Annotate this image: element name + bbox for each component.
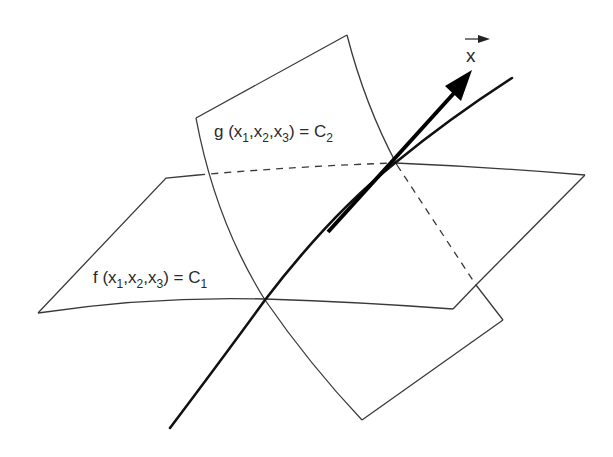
surface-f-hidden-top-edge (198, 163, 395, 175)
surface-g-right-lower-edge (476, 285, 503, 320)
tangent-vector-shaft (328, 92, 455, 232)
surface-f-label-prefix: f (x (93, 268, 117, 287)
surface-f-right-edge (476, 175, 585, 285)
surface-g-label-prefix: g (x (214, 122, 243, 141)
surface-f-bottom-edge (38, 299, 453, 313)
surface-f-label-suffix: ) = C (163, 268, 200, 287)
surface-f-label-const-sub: 1 (200, 277, 207, 291)
diagram-svg: x g (x1,x2,x3) = C2 f (x1,x2,x3) = C1 (0, 0, 613, 457)
surface-f-label-sep2: ,x (143, 268, 157, 287)
surface-g-label-sep1: ,x (249, 122, 263, 141)
surface-g-left-edge (196, 118, 362, 420)
surface-f-label: f (x1,x2,x3) = C1 (93, 268, 207, 291)
vector-label-symbol: x (466, 45, 476, 66)
surface-g-label: g (x1,x2,x3) = C2 (214, 122, 333, 145)
tangent-vector (328, 70, 472, 232)
diagram-canvas: x g (x1,x2,x3) = C2 f (x1,x2,x3) = C1 (0, 0, 613, 457)
surface-f-top-right-edge (395, 163, 585, 175)
surface-g-bottom-edge (362, 320, 503, 420)
surface-g-label-const-sub: 2 (326, 131, 333, 145)
surface-g-top-edge (196, 35, 347, 118)
surface-g-label-sep2: ,x (269, 122, 283, 141)
vector-label-overarrow-head (478, 35, 490, 43)
surface-g-hidden-right-edge (397, 165, 476, 285)
vector-label: x (465, 35, 490, 66)
surface-f-left-edges (38, 175, 198, 313)
surface-f-label-sep1: ,x (123, 268, 137, 287)
surface-g-label-suffix: ) = C (289, 122, 326, 141)
surface-g-right-upper-edge (347, 35, 397, 165)
surface-f-right-edge-lower (453, 285, 476, 309)
